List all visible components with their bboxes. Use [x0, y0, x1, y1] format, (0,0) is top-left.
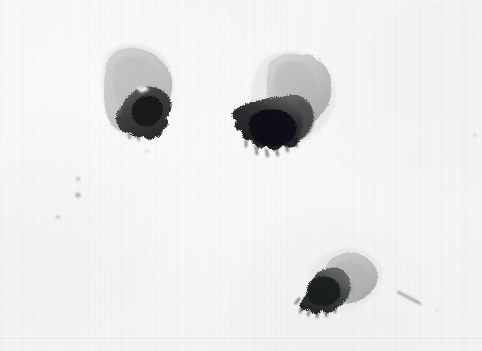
speck-near-streak: [428, 298, 430, 300]
lower-right-blot: [295, 248, 422, 318]
speck-center-low: [145, 149, 148, 152]
center-blot-satellite-speck: [241, 112, 245, 116]
speck-middle: [75, 192, 80, 197]
ink-blots-svg: [0, 0, 482, 351]
speck-right-edge: [474, 134, 477, 137]
speck-lower: [56, 215, 60, 219]
upper-left-blot: [102, 44, 175, 141]
lower-right-blot-dark-core: [307, 276, 341, 306]
speck-bottom-right: [436, 309, 439, 312]
artwork-canvas: [0, 0, 482, 351]
ink-blot-artwork: [0, 0, 482, 351]
center-blot: [232, 52, 336, 157]
speck-upper: [76, 177, 80, 181]
paper-specks: [56, 134, 477, 312]
